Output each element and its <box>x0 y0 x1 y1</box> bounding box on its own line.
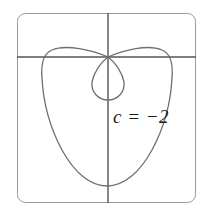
plot-canvas <box>0 0 207 211</box>
limacon-figure: c = −2 <box>0 0 207 211</box>
curve-parameter-label: c = −2 <box>113 107 169 126</box>
